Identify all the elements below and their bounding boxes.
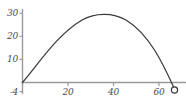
y-tick-label-neg4: -4 — [0, 88, 18, 97]
y-tick-label-30: 30 — [0, 9, 18, 18]
parabola-chart-figure: 30 20 10 -4 20 40 60 — [0, 0, 186, 102]
x-tick-label-40: 40 — [102, 88, 126, 97]
x-tick-label-60: 60 — [147, 88, 171, 97]
open-endpoint-marker — [171, 87, 177, 93]
y-tick-label-10: 10 — [0, 55, 18, 64]
x-tick-label-20: 20 — [56, 88, 80, 97]
parabola-curve — [23, 14, 175, 88]
y-tick-label-20: 20 — [0, 32, 18, 41]
